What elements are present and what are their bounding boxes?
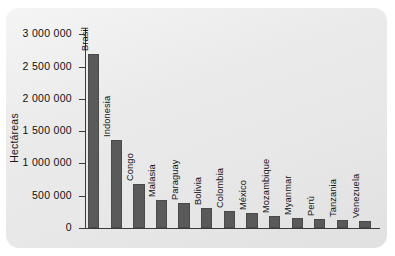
bar-group: Myanmar [292, 28, 303, 228]
bar-group: Tanzania [337, 28, 348, 228]
y-axis-tick-mark [79, 99, 86, 100]
bar-category-label: Tanzania [328, 179, 338, 217]
figure: Hectáreas 3 000 0002 500 0002 000 0001 5… [0, 0, 395, 256]
y-axis-tick-label: 2 500 000 [4, 60, 72, 72]
y-axis-tick-label: 500 000 [4, 189, 72, 201]
bar-group: Mozambique [269, 28, 280, 228]
y-axis-tick-label: 1 000 000 [4, 156, 72, 168]
bar-group: Indonesia [111, 28, 122, 228]
y-axis-tick-mark [79, 34, 86, 35]
y-axis-tick-label: 3 000 000 [4, 27, 72, 39]
y-axis-tick-label: 0 [4, 221, 72, 233]
y-axis-tick-mark [79, 131, 86, 132]
bar-category-label: Congo [125, 153, 135, 181]
y-axis-tick-labels: 3 000 0002 500 0002 000 0001 500 0001 00… [0, 0, 72, 256]
bar-group: Congo [133, 28, 144, 228]
bar-category-label: Malasia [147, 164, 157, 197]
bar-category-label: Colombia [215, 168, 225, 208]
bar-category-label: México [238, 180, 248, 210]
bar-group: Bolivia [201, 28, 212, 228]
bar-category-label: Mozambique [261, 159, 271, 213]
bar-group: Paraguay [178, 28, 189, 228]
y-axis-tick-label: 2 000 000 [4, 92, 72, 104]
y-axis-tick-label: 1 500 000 [4, 124, 72, 136]
bar-group: Brasil [88, 28, 99, 228]
bar-group: Venezuela [359, 28, 370, 228]
bar-group: México [246, 28, 257, 228]
bar-category-label: Perú [306, 196, 316, 216]
bar [359, 221, 370, 228]
y-axis-tick-mark [79, 163, 86, 164]
x-axis-line [85, 228, 380, 229]
bar-group: Perú [314, 28, 325, 228]
bar [292, 218, 303, 228]
bar-group: Malasia [156, 28, 167, 228]
y-axis-tick-mark [79, 228, 86, 229]
y-axis-tick-mark [79, 196, 86, 197]
bar [156, 200, 167, 228]
bar [178, 203, 189, 228]
bar-category-label: Indonesia [102, 96, 112, 137]
bar [314, 219, 325, 228]
bar [337, 220, 348, 228]
bar-category-label: Paraguay [170, 160, 180, 201]
bar [133, 184, 144, 228]
bar-category-label: Venezuela [351, 174, 361, 218]
bar-group: Colombia [224, 28, 235, 228]
plot-area: BrasilIndonesiaCongoMalasiaParaguayBoliv… [86, 28, 380, 228]
bar [246, 213, 257, 228]
bar [269, 216, 280, 228]
bar [111, 140, 122, 228]
y-axis-tick-mark [79, 67, 86, 68]
bar-category-label: Myanmar [283, 175, 293, 214]
bar [201, 208, 212, 228]
bar [88, 54, 99, 228]
bar [224, 211, 235, 228]
bar-category-label: Bolivia [193, 177, 203, 205]
bar-category-label: Brasil [80, 27, 90, 51]
